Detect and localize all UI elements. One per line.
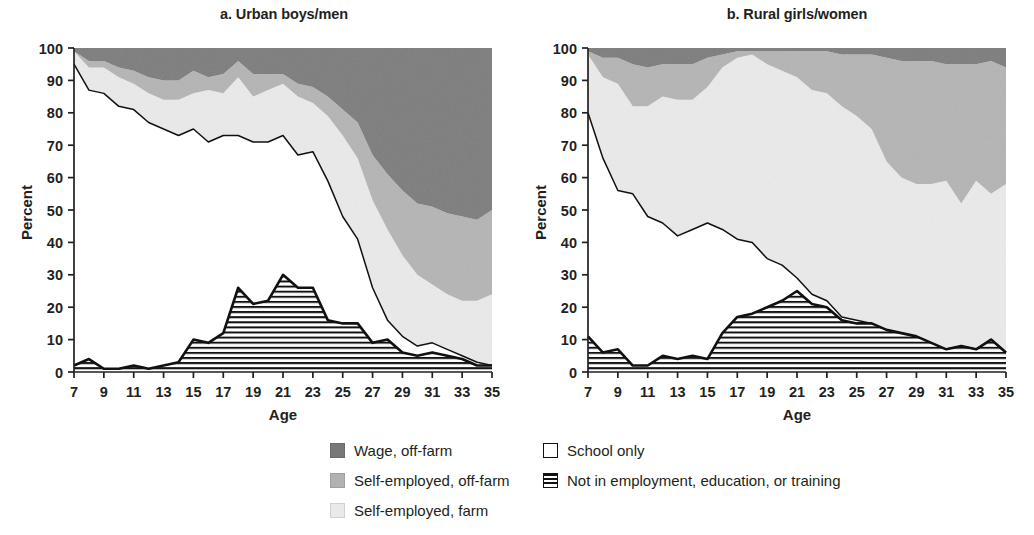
y-axis-tick-label: 50: [561, 203, 577, 219]
legend-item-label: Self-employed, farm: [354, 500, 488, 521]
x-axis-tick-label: 21: [789, 384, 805, 400]
x-axis-tick-label: 17: [729, 384, 745, 400]
y-axis-tick-label: 50: [47, 203, 63, 219]
legend-swatch-self-employed-off-farm: [330, 473, 345, 488]
x-axis-tick-label: 7: [70, 384, 78, 400]
legend-column-left: Wage, off-farmSelf-employed, off-farmSel…: [330, 440, 510, 530]
y-axis-tick-label: 10: [47, 332, 63, 348]
x-axis-tick-label: 13: [670, 384, 686, 400]
y-axis-tick-label: 90: [47, 73, 63, 89]
y-axis-tick-label: 70: [47, 138, 63, 154]
x-axis-tick-label: 15: [185, 384, 201, 400]
legend-item[interactable]: Self-employed, farm: [330, 500, 510, 530]
y-axis-tick-label: 0: [55, 365, 63, 381]
legend-swatch-neet: [543, 473, 558, 488]
legend-item-label: Not in employment, education, or trainin…: [567, 470, 840, 491]
y-axis-tick-label: 20: [561, 300, 577, 316]
x-axis-tick-label: 13: [156, 384, 172, 400]
y-axis-tick-label: 20: [47, 300, 63, 316]
x-axis-tick-label: 19: [245, 384, 261, 400]
y-axis-tick-label: 70: [561, 138, 577, 154]
x-axis-tick-label: 9: [614, 384, 622, 400]
y-axis-tick-label: 40: [47, 235, 63, 251]
x-axis-tick-label: 27: [365, 384, 381, 400]
y-axis-tick-label: 60: [561, 170, 577, 186]
x-axis-tick-label: 33: [968, 384, 984, 400]
x-axis-tick-label: 9: [100, 384, 108, 400]
legend-item[interactable]: Self-employed, off-farm: [330, 470, 510, 500]
x-axis-tick-label: 19: [759, 384, 775, 400]
plot-area-rural-girls-women: 0102030405060708090100791113151719212325…: [514, 0, 1034, 430]
legend-item[interactable]: School only: [543, 440, 840, 470]
x-axis-tick-label: 25: [849, 384, 865, 400]
figure-stacked-area-charts: a. Urban boys/men 0102030405060708090100…: [0, 0, 1034, 535]
x-axis-tick-label: 7: [584, 384, 592, 400]
x-axis-label-panel-b: Age: [588, 406, 1006, 423]
x-axis-tick-label: 23: [819, 384, 835, 400]
x-axis-tick-label: 29: [394, 384, 410, 400]
y-axis-tick-label: 30: [561, 267, 577, 283]
x-axis-tick-label: 35: [998, 384, 1014, 400]
legend-swatch-school-only: [543, 443, 558, 458]
x-axis-tick-label: 33: [454, 384, 470, 400]
y-axis-tick-label: 30: [47, 267, 63, 283]
x-axis-tick-label: 15: [699, 384, 715, 400]
x-axis-tick-label: 35: [484, 384, 500, 400]
chart-panel-urban-boys-men: a. Urban boys/men 0102030405060708090100…: [0, 0, 510, 430]
y-axis-label-panel-a: Percent: [18, 185, 35, 240]
y-axis-tick-label: 60: [47, 170, 63, 186]
x-axis-tick-label: 29: [908, 384, 924, 400]
x-axis-tick-label: 31: [424, 384, 440, 400]
plot-area-urban-boys-men: 0102030405060708090100791113151719212325…: [0, 0, 510, 430]
y-axis-label-panel-b: Percent: [532, 185, 549, 240]
legend-swatch-self-employed-farm: [330, 503, 345, 518]
legend-column-right: School onlyNot in employment, education,…: [543, 440, 840, 500]
x-axis-label-panel-a: Age: [74, 406, 492, 423]
x-axis-tick-label: 21: [275, 384, 291, 400]
legend-item[interactable]: Not in employment, education, or trainin…: [543, 470, 840, 500]
y-axis-tick-label: 0: [569, 365, 577, 381]
y-axis-tick-label: 100: [39, 41, 63, 57]
x-axis-tick-label: 23: [305, 384, 321, 400]
y-axis-tick-label: 90: [561, 73, 577, 89]
x-axis-tick-label: 31: [938, 384, 954, 400]
x-axis-tick-label: 25: [335, 384, 351, 400]
y-axis-tick-label: 10: [561, 332, 577, 348]
legend-item-label: Self-employed, off-farm: [354, 470, 510, 491]
x-axis-tick-label: 17: [215, 384, 231, 400]
legend-item-label: Wage, off-farm: [354, 440, 452, 461]
chart-legend: Wage, off-farmSelf-employed, off-farmSel…: [0, 440, 1034, 535]
y-axis-tick-label: 80: [47, 105, 63, 121]
chart-panel-rural-girls-women: b. Rural girls/women 0102030405060708090…: [514, 0, 1034, 430]
legend-item[interactable]: Wage, off-farm: [330, 440, 510, 470]
y-axis-tick-label: 100: [553, 41, 577, 57]
y-axis-tick-label: 40: [561, 235, 577, 251]
y-axis-tick-label: 80: [561, 105, 577, 121]
x-axis-tick-label: 27: [879, 384, 895, 400]
x-axis-tick-label: 11: [126, 384, 141, 400]
legend-item-label: School only: [567, 440, 645, 461]
x-axis-tick-label: 11: [640, 384, 655, 400]
legend-swatch-wage-off-farm: [330, 443, 345, 458]
